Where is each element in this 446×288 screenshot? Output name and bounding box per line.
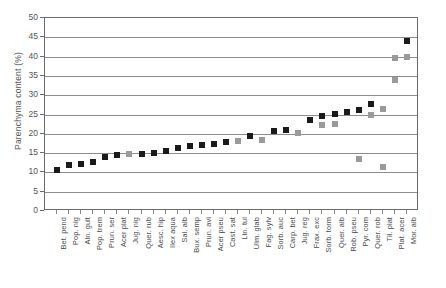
x-axis-tick-label: Frax. exc: [312, 217, 321, 248]
x-axis-tick-label: Prun. avi: [204, 217, 213, 247]
y-axis-tick-label: 10: [12, 166, 38, 176]
x-axis-tick-label: Lin. tul: [240, 217, 249, 240]
data-point: [175, 145, 181, 151]
x-axis-tick-mark: [273, 210, 274, 214]
x-axis-tick-label: Plat. acer: [397, 217, 406, 249]
x-axis-tick-label: Acer plat: [119, 217, 128, 247]
gridline: [45, 172, 417, 173]
y-axis-tick-label: 40: [12, 51, 38, 61]
data-point: [368, 112, 374, 118]
data-point: [332, 121, 338, 127]
x-axis-tick-label: Acer pseu: [216, 217, 225, 251]
x-axis-tick-label: Cast. sat: [228, 217, 237, 247]
data-point: [404, 38, 410, 44]
y-axis-tick-label: 5: [12, 186, 38, 196]
x-axis-tick-mark: [321, 210, 322, 214]
data-point: [126, 151, 132, 157]
gridline: [45, 57, 417, 58]
y-axis-tick-mark: [40, 133, 44, 134]
x-axis-tick-label: Sorb. torm: [324, 217, 333, 253]
y-axis-tick-mark: [40, 114, 44, 115]
data-point: [114, 152, 120, 158]
x-axis-tick-label: Quer. rob: [373, 217, 382, 249]
x-axis-tick-mark: [406, 210, 407, 214]
x-axis-tick-label: Jug. reg: [300, 217, 309, 245]
y-axis-tick-label: 30: [12, 89, 38, 99]
y-axis-tick-label: 0: [12, 205, 38, 215]
parenchyma-content-scatter-chart: Parenchyma content (%) 05101520253035404…: [0, 0, 446, 288]
x-axis-tick-label: Til. plat: [385, 217, 394, 241]
y-axis-tick-mark: [40, 56, 44, 57]
x-axis-tick-label: Carp. bet: [288, 217, 297, 248]
x-axis-tick-mark: [261, 210, 262, 214]
x-axis-tick-label: Bux. semp: [192, 217, 201, 253]
y-axis-tick-mark: [40, 75, 44, 76]
data-point: [139, 151, 145, 157]
data-point: [319, 113, 325, 119]
data-point: [392, 77, 398, 83]
x-axis-tick-label: Pop. trem: [95, 217, 104, 250]
gridline: [45, 153, 417, 154]
data-point: [211, 141, 217, 147]
x-axis-tick-mark: [382, 210, 383, 214]
y-axis-tick-label: 15: [12, 147, 38, 157]
x-axis-tick-mark: [297, 210, 298, 214]
data-point: [332, 111, 338, 117]
data-point: [356, 107, 362, 113]
x-axis-tick-mark: [237, 210, 238, 214]
y-axis-tick-label: 50: [12, 12, 38, 22]
data-point: [259, 137, 265, 143]
gridline: [45, 76, 417, 77]
x-axis-tick-mark: [285, 210, 286, 214]
plot-area: [44, 17, 418, 210]
data-point: [368, 101, 374, 107]
data-point: [151, 150, 157, 156]
y-axis-tick-label: 25: [12, 109, 38, 119]
x-axis-tick-mark: [153, 210, 154, 214]
data-point: [380, 164, 386, 170]
data-point: [66, 162, 72, 168]
x-axis-tick-label: Quer. rub: [144, 217, 153, 249]
x-axis-tick-label: Prun. ser: [107, 217, 116, 248]
gridline: [45, 134, 417, 135]
x-axis-tick-mark: [116, 210, 117, 214]
y-axis-tick-mark: [40, 152, 44, 153]
data-point: [344, 109, 350, 115]
gridline: [45, 37, 417, 38]
data-point: [307, 117, 313, 123]
data-point: [223, 139, 229, 145]
data-point: [356, 156, 362, 162]
x-axis-tick-label: Pyr. com: [361, 217, 370, 247]
x-axis-tick-mark: [370, 210, 371, 214]
data-point: [380, 106, 386, 112]
x-axis-tick-mark: [309, 210, 310, 214]
x-axis-tick-mark: [104, 210, 105, 214]
data-point: [392, 55, 398, 61]
x-axis-tick-mark: [213, 210, 214, 214]
y-axis-tick-label: 35: [12, 70, 38, 80]
x-axis-tick-mark: [189, 210, 190, 214]
data-point: [187, 143, 193, 149]
x-axis-tick-label: Jug. nig: [131, 217, 140, 244]
y-axis-tick-label: 45: [12, 31, 38, 41]
data-point: [271, 128, 277, 134]
x-axis-tick-mark: [225, 210, 226, 214]
data-point: [247, 133, 253, 139]
x-axis-tick-mark: [68, 210, 69, 214]
x-axis-tick-mark: [141, 210, 142, 214]
data-point: [319, 122, 325, 128]
data-point: [102, 154, 108, 160]
gridline: [45, 192, 417, 193]
y-axis-tick-mark: [40, 17, 44, 18]
y-axis-tick-mark: [40, 94, 44, 95]
gridline: [45, 95, 417, 96]
x-axis-tick-mark: [56, 210, 57, 214]
x-axis-tick-label: Aln. gult: [83, 217, 92, 245]
x-axis-tick-label: Sorb. auc: [276, 217, 285, 250]
data-point: [199, 142, 205, 148]
data-point: [163, 148, 169, 154]
y-axis-tick-mark: [40, 210, 44, 211]
x-axis-tick-label: Ulm. glab: [252, 217, 261, 249]
x-axis-tick-label: Rob. pseu: [349, 217, 358, 252]
x-axis-tick-mark: [346, 210, 347, 214]
